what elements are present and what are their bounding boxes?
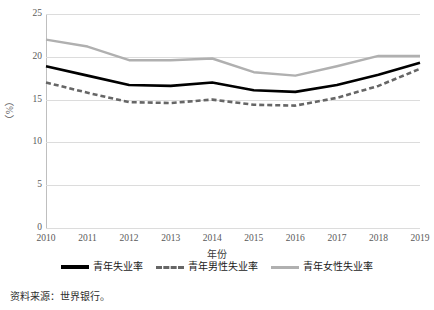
legend-item[interactable]: 青年失业率 bbox=[61, 262, 143, 272]
youth-unemployment-line-chart: 0510152025 （%） 2010201120122013201420152… bbox=[0, 0, 434, 310]
gridline bbox=[46, 228, 420, 229]
plot-area bbox=[46, 14, 420, 228]
legend-label: 青年失业率 bbox=[93, 262, 143, 272]
x-axis-tick: 2010 bbox=[24, 231, 68, 245]
x-axis-tick: 2013 bbox=[149, 231, 193, 245]
series-line bbox=[46, 63, 420, 92]
x-axis-tick: 2012 bbox=[107, 231, 151, 245]
x-axis-tick-labels: 2010201120122013201420152016201720182019 bbox=[46, 231, 420, 247]
x-axis-tick: 2015 bbox=[232, 231, 276, 245]
legend-item[interactable]: 青年男性失业率 bbox=[156, 262, 258, 272]
legend-swatch-icon bbox=[271, 266, 299, 269]
x-axis-tick: 2019 bbox=[398, 231, 434, 245]
legend-swatch-icon bbox=[156, 266, 184, 269]
legend-item[interactable]: 青年女性失业率 bbox=[271, 262, 373, 272]
legend-label: 青年女性失业率 bbox=[303, 262, 373, 272]
y-axis-tick: 20 bbox=[2, 52, 42, 62]
series-lines bbox=[46, 14, 420, 228]
x-axis-tick: 2011 bbox=[66, 231, 110, 245]
x-axis-tick: 2014 bbox=[190, 231, 234, 245]
x-axis-tick: 2017 bbox=[315, 231, 359, 245]
y-axis-tick: 10 bbox=[2, 137, 42, 147]
legend-swatch-icon bbox=[61, 265, 89, 269]
chart-legend: 青年失业率青年男性失业率青年女性失业率 bbox=[0, 262, 434, 272]
series-line bbox=[46, 40, 420, 76]
legend-label: 青年男性失业率 bbox=[188, 262, 258, 272]
source-note: 资料来源：世界银行。 bbox=[10, 288, 110, 303]
x-axis-tick: 2018 bbox=[356, 231, 400, 245]
y-axis-tick: 25 bbox=[2, 9, 42, 19]
x-axis-tick: 2016 bbox=[273, 231, 317, 245]
x-axis-title: 年份 bbox=[0, 246, 434, 261]
y-axis-title: （%） bbox=[3, 96, 17, 124]
y-axis-tick: 5 bbox=[2, 180, 42, 190]
